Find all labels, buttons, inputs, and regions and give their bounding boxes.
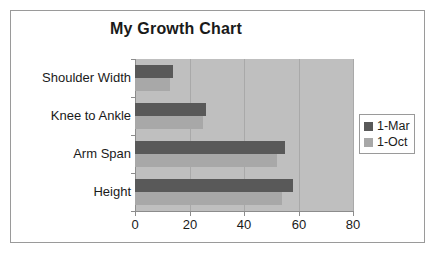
bar-1-mar-knee-to-ankle <box>135 103 206 116</box>
x-axis-tick-label: 60 <box>279 217 319 232</box>
category-labels: HeightArm SpanKnee to AnkleShoulder Widt… <box>11 59 131 211</box>
bar-1-oct-arm-span <box>135 154 277 167</box>
chart-frame: My Growth Chart HeightArm SpanKnee to An… <box>10 10 425 243</box>
x-axis-tick <box>190 212 191 216</box>
category-label: Height <box>13 184 131 199</box>
x-axis-tick <box>353 212 354 216</box>
legend-label: 1-Mar <box>377 119 410 133</box>
legend-swatch-icon <box>364 122 373 131</box>
y-axis-tick <box>131 211 135 212</box>
bar-1-mar-shoulder-width <box>135 65 173 78</box>
category-label: Knee to Ankle <box>13 108 131 123</box>
bar-1-mar-height <box>135 179 293 192</box>
x-axis-tick-label: 0 <box>115 217 155 232</box>
x-axis-tick <box>299 212 300 216</box>
chart-title: My Growth Chart <box>11 20 341 38</box>
bar-1-mar-arm-span <box>135 141 285 154</box>
x-axis-tick-label: 20 <box>170 217 210 232</box>
x-axis-tick-label: 40 <box>224 217 264 232</box>
x-axis-tick-label: 80 <box>333 217 373 232</box>
bars-container <box>135 59 353 211</box>
bar-1-oct-height <box>135 192 282 205</box>
legend-label: 1-Oct <box>377 135 408 149</box>
category-label: Arm Span <box>13 146 131 161</box>
gridline <box>353 59 354 211</box>
bar-1-oct-knee-to-ankle <box>135 116 203 129</box>
legend-item: 1-Oct <box>364 134 410 150</box>
legend-item: 1-Mar <box>364 118 410 134</box>
chart-legend: 1-Mar1-Oct <box>359 114 415 154</box>
x-axis-tick <box>244 212 245 216</box>
category-label: Shoulder Width <box>13 70 131 85</box>
x-axis-tick <box>135 212 136 216</box>
legend-swatch-icon <box>364 138 373 147</box>
bar-1-oct-shoulder-width <box>135 78 170 91</box>
